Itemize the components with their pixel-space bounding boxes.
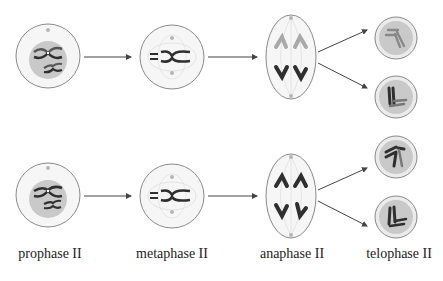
metaphase-cell-top <box>140 25 204 89</box>
label-anaphase-ii: anaphase II <box>260 246 324 262</box>
telophase-cell-top-a <box>375 17 417 59</box>
telophase-cell-top-b <box>375 76 417 118</box>
bottom-row <box>16 136 417 238</box>
label-telophase-ii: telophase II <box>366 246 432 262</box>
prophase-cell-top <box>16 24 80 88</box>
label-prophase-ii: prophase II <box>18 246 81 262</box>
meiosis-ii-diagram <box>0 0 443 281</box>
anaphase-cell-bottom <box>266 154 316 238</box>
metaphase-cell-bottom <box>140 164 204 228</box>
telophase-cell-bottom-b <box>375 196 417 238</box>
label-metaphase-ii: metaphase II <box>136 246 208 262</box>
prophase-cell-bottom <box>16 163 80 227</box>
top-row <box>16 15 417 118</box>
telophase-cell-bottom-a <box>375 136 417 178</box>
anaphase-cell-top <box>266 15 316 99</box>
